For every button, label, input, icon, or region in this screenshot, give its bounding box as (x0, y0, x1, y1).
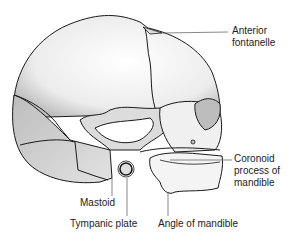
mandible (150, 153, 223, 193)
label-line: fontanelle (232, 37, 275, 49)
label-line: mandible (234, 177, 280, 189)
label-angle-of-mandible: Angle of mandible (158, 218, 238, 230)
label-line: Coronoid (234, 153, 280, 165)
label-line: Mastoid (80, 197, 115, 209)
label-tympanic-plate: Tympanic plate (70, 218, 137, 230)
label-line: Tympanic plate (70, 218, 137, 230)
label-anterior-fontanelle: Anterior fontanelle (232, 25, 275, 49)
leader-anterior-fontanelle (162, 32, 228, 33)
label-line: Anterior (232, 25, 275, 37)
label-line: process of (234, 165, 280, 177)
label-coronoid-process: Coronoid process of mandible (234, 153, 280, 189)
tympanic-ring (120, 163, 132, 175)
label-line: Angle of mandible (158, 218, 238, 230)
label-mastoid: Mastoid (80, 197, 115, 209)
